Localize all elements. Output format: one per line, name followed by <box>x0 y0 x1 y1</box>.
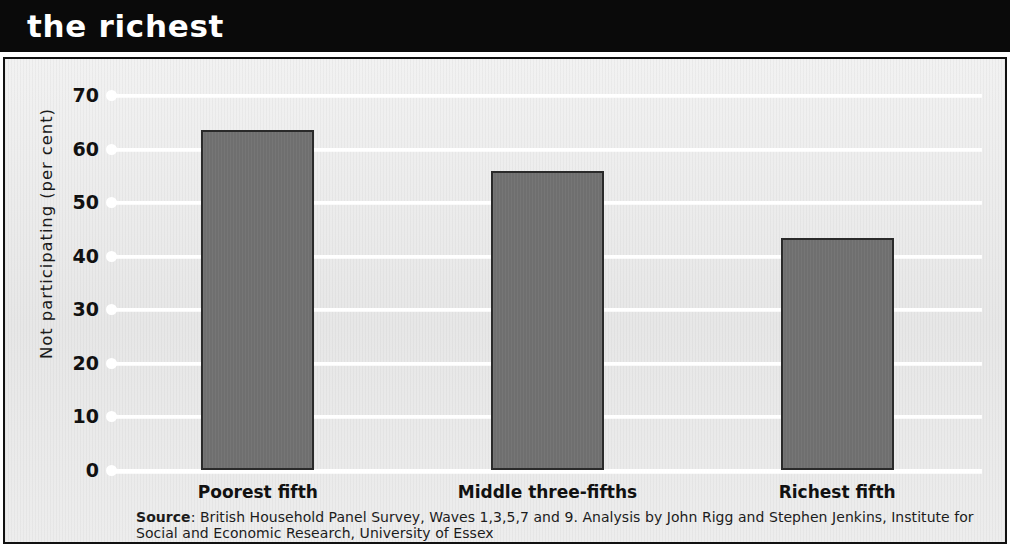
bar <box>781 238 894 470</box>
x-axis-tick-label: Richest fifth <box>779 482 896 502</box>
y-axis-tick-dot <box>106 304 117 315</box>
figure: the richest Not participating (per cent)… <box>0 0 1010 548</box>
y-axis-tick-label: 30 <box>73 298 99 320</box>
y-axis-tick-dot <box>106 197 117 208</box>
chart-panel: Not participating (per cent) 01020304050… <box>3 57 1007 544</box>
gridline <box>113 94 982 97</box>
x-axis-tick-label: Middle three-fifths <box>458 482 637 502</box>
y-axis-tick-label: 50 <box>73 191 99 213</box>
page-title: the richest <box>27 4 224 48</box>
y-axis-title: Not participating (per cent) <box>37 108 56 359</box>
source-label: Source <box>136 509 191 525</box>
bar <box>491 171 604 470</box>
plot-area: 010203040506070 Poorest fifthMiddle thre… <box>113 95 982 470</box>
y-axis-tick-dot <box>106 144 117 155</box>
title-banner: the richest <box>0 0 1010 52</box>
y-axis-tick-label: 40 <box>73 245 99 267</box>
y-axis-tick-dot <box>106 465 117 476</box>
y-axis-tick-label: 10 <box>73 405 99 427</box>
source-text: : British Household Panel Survey, Waves … <box>136 509 974 541</box>
y-axis-tick-label: 0 <box>86 459 99 481</box>
y-axis-tick-dot <box>106 411 117 422</box>
y-axis-tick-label: 20 <box>73 352 99 374</box>
y-axis-tick-dot <box>106 358 117 369</box>
y-axis-tick-label: 60 <box>73 138 99 160</box>
y-axis-tick-dot <box>106 90 117 101</box>
y-axis-tick-dot <box>106 251 117 262</box>
x-axis-tick-label: Poorest fifth <box>198 482 318 502</box>
bar <box>201 130 314 470</box>
source-note: Source: British Household Panel Survey, … <box>136 510 991 541</box>
y-axis-tick-label: 70 <box>73 84 99 106</box>
